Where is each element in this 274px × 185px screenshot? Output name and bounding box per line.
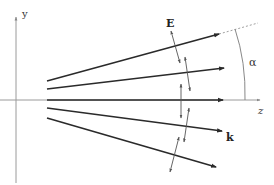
- ray-4: [47, 108, 222, 131]
- angle-arc: [235, 29, 245, 100]
- rays: [47, 34, 224, 167]
- E-vector-4: [184, 108, 189, 142]
- angle-alpha-label: α: [249, 56, 257, 69]
- wave-bundle-diagram: y z α E k: [0, 0, 274, 185]
- polarization-vectors: [170, 31, 190, 172]
- wavevector-k-label: k: [226, 131, 234, 144]
- angle-indicator: α: [219, 23, 258, 100]
- E-vector-2: [185, 57, 190, 91]
- z-axis-label: z: [257, 105, 264, 116]
- y-axis-label: y: [21, 8, 28, 19]
- ray-5: [47, 118, 216, 167]
- ray-2: [47, 68, 224, 89]
- dashed-extension-line: [219, 23, 258, 34]
- field-E-label: E: [166, 17, 174, 30]
- ray-1: [47, 34, 219, 81]
- axes: y z: [0, 8, 264, 183]
